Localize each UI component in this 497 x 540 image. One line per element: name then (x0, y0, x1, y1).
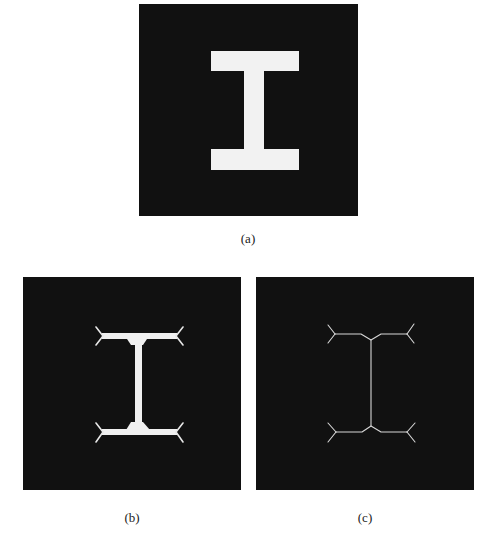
panel-a-original-image (139, 4, 358, 216)
caption-c: (c) (358, 510, 372, 526)
caption-b: (b) (124, 510, 139, 526)
i-shape-thinned (23, 277, 241, 490)
i-shape-skeleton (256, 277, 474, 490)
panel-b-thinned-image (23, 277, 241, 490)
panel-c-skeleton-image (256, 277, 474, 490)
caption-a: (a) (241, 231, 255, 247)
i-shape-solid (139, 4, 358, 216)
